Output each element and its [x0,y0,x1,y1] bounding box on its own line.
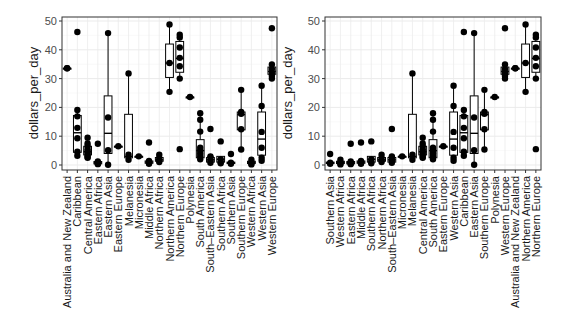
data-point [217,138,223,144]
data-point [84,134,90,140]
data-point [368,138,374,144]
data-point [348,161,354,167]
data-point [105,114,111,120]
data-point [471,114,477,120]
data-point [258,83,264,89]
data-point [74,107,80,113]
y-tick-label: 10 [308,130,320,142]
box-northern-africa [155,151,163,165]
data-point [74,135,80,141]
data-point [522,21,528,27]
data-point [481,126,487,132]
x-tick-label: Northern Europe [530,176,542,257]
data-point [492,94,498,100]
data-point [177,75,183,81]
data-point [146,139,152,145]
data-point [430,128,436,134]
box-iqr [470,96,478,154]
data-point [177,44,183,50]
box-central-america [84,134,92,161]
y-tick-label: 30 [45,73,57,85]
data-point [156,159,162,165]
data-point [461,113,467,119]
right-boxplot-panel: 01020304050Southern AsiaWestern AfricaEa… [280,15,542,308]
data-point [399,153,405,159]
data-point [136,153,142,159]
data-point [84,155,90,161]
data-point [238,111,244,117]
y-tick-label: 50 [45,15,57,27]
data-point [166,89,172,95]
data-point [461,153,467,159]
data-point [389,126,395,132]
data-point [533,146,539,152]
data-point [105,30,111,36]
box-iqr [104,96,112,154]
data-point [228,161,234,167]
data-point [471,147,477,153]
data-point [74,29,80,35]
data-point [327,151,333,157]
data-point [258,145,264,151]
data-point [420,155,426,161]
data-point [228,151,234,157]
data-point [95,161,101,167]
box-iqr [73,115,81,152]
data-point [74,113,80,119]
data-point [105,162,111,168]
data-point [197,128,203,134]
data-point [471,30,477,36]
box-central-america [419,134,427,161]
y-tick-label: 50 [308,15,320,27]
data-point [512,65,518,71]
x-tick-label: Western Europe [266,176,278,255]
data-point [166,21,172,27]
data-point [197,156,203,162]
y-axis-title: dollars_per_day [26,46,41,139]
data-point [368,160,374,166]
data-point [409,70,415,76]
data-point [440,143,446,149]
data-point [533,55,539,61]
y-axis-title: dollars_per_day [280,46,295,139]
data-point [248,161,254,167]
data-point [269,75,275,81]
data-point [461,125,467,131]
data-point [481,111,487,117]
y-tick-label: 20 [308,101,320,113]
data-point [217,160,223,166]
data-point [207,159,213,165]
data-point [238,87,244,93]
box-northern-africa [378,151,386,165]
data-point [258,129,264,135]
data-point [95,140,101,146]
data-point [533,34,539,40]
data-point [207,126,213,132]
box-western-africa [337,157,345,168]
data-point [522,89,528,95]
box-western-africa [248,157,256,168]
data-point [74,125,80,131]
data-point [238,146,244,152]
data-point [450,83,456,89]
data-point [502,75,508,81]
data-point [197,117,203,123]
box-iqr [125,114,133,157]
data-point [197,110,203,116]
y-tick-label: 30 [308,73,320,85]
data-point [74,153,80,159]
data-point [177,34,183,40]
data-point [533,44,539,50]
data-point [481,146,487,152]
y-tick-label: 20 [45,101,57,113]
data-point [522,60,528,66]
data-point [533,63,539,69]
box-iqr [460,115,468,152]
data-point [450,157,456,163]
data-point [177,55,183,61]
chart-canvas: 01020304050Australia and New ZealandCari… [0,0,571,323]
data-point [125,70,131,76]
data-point [450,129,456,135]
data-point [337,161,343,167]
data-point [450,145,456,151]
